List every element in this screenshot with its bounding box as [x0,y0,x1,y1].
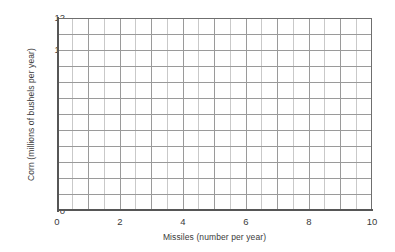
x-axis-spine [57,209,373,211]
y-axis-title: Corn (millions of bushels per year) [24,18,38,211]
x-tick-label-8: 8 [296,215,322,228]
chart-figure: Corn (millions of bushels per year) 12 1… [0,0,395,252]
x-tick-label-6: 6 [233,215,259,228]
x-tick-label-10: 10 [359,215,385,228]
y-axis-spine [57,17,59,212]
x-tick-label-4: 4 [170,215,196,228]
x-tick-label-2: 2 [107,215,133,228]
plot-area [57,18,372,211]
x-tick-label-0: 0 [44,215,70,228]
x-axis-title: Missiles (number per year) [57,230,372,244]
gridlines [57,18,372,211]
